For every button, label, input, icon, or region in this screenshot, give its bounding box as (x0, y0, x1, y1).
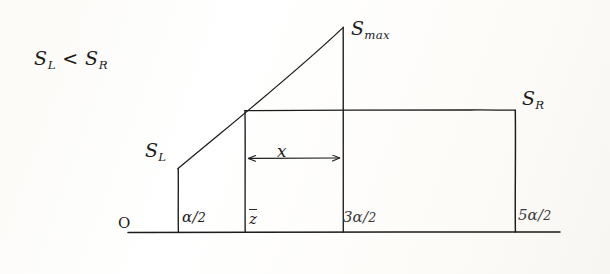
inequality-s-left: S (34, 47, 48, 69)
inequality-label: SL < SR (34, 49, 108, 68)
tick-z-symbol: z (249, 212, 257, 227)
s-right-subscript: R (535, 98, 544, 112)
tick-label-three-alpha-over-2: 3α/2 (343, 211, 376, 226)
tick-5alpha-numerator: 5α (518, 206, 538, 224)
tick-alpha-denominator: 2 (198, 210, 206, 225)
s-max-subscript: max (364, 28, 390, 42)
s-max-symbol: S (351, 17, 364, 39)
s-left-label: SL (145, 141, 166, 160)
tick-5alpha-denominator: 2 (543, 208, 551, 223)
tick-alpha-numerator: α (182, 208, 192, 226)
tick-label-z-bar: z (249, 212, 257, 227)
inequality-sub-left: L (48, 58, 56, 72)
plateau-top-line (245, 110, 515, 111)
inequality-sub-right: R (99, 58, 108, 72)
s-right-label: SR (522, 89, 544, 108)
baseline-axis (128, 232, 560, 233)
figure-canvas: SL < SR Smax SR SL x O α/2 z 3α/2 5α/2 (0, 0, 610, 274)
tick-label-alpha-over-2: α/2 (182, 211, 206, 226)
tick-3alpha-numerator: 3α (343, 208, 363, 226)
ramp-line (178, 28, 343, 169)
tick-3alpha-denominator: 2 (368, 210, 376, 225)
tick-label-five-alpha-over-2: 5α/2 (518, 209, 551, 224)
s-left-subscript: L (158, 150, 166, 164)
s-left-symbol: S (145, 139, 158, 161)
diagram-strokes (0, 0, 610, 274)
origin-label: O (118, 216, 130, 231)
s-right-symbol: S (522, 87, 535, 109)
s-max-label: Smax (351, 19, 390, 38)
inequality-operator: < (56, 47, 86, 69)
inequality-s-right: S (85, 47, 99, 69)
width-x-label: x (277, 143, 287, 160)
